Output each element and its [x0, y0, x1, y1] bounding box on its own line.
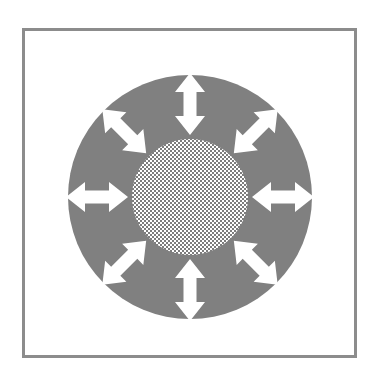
inner-checkered-disc	[132, 139, 248, 255]
radial-expansion-figure	[0, 0, 378, 377]
page-canvas	[0, 0, 378, 377]
